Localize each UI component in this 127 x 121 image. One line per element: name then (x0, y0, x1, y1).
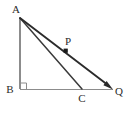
geometry-figure: A B C P Q (0, 0, 127, 121)
vertex-label-q: Q (115, 86, 123, 97)
geometry-canvas (0, 0, 127, 121)
point-marker-p (64, 49, 68, 53)
right-angle-marker-b (20, 83, 27, 90)
vertex-label-b: B (6, 84, 13, 95)
vertex-label-c: C (78, 93, 85, 104)
vertex-label-p: P (65, 36, 71, 47)
segment-ac (20, 18, 82, 89)
vertex-label-a: A (12, 4, 20, 15)
